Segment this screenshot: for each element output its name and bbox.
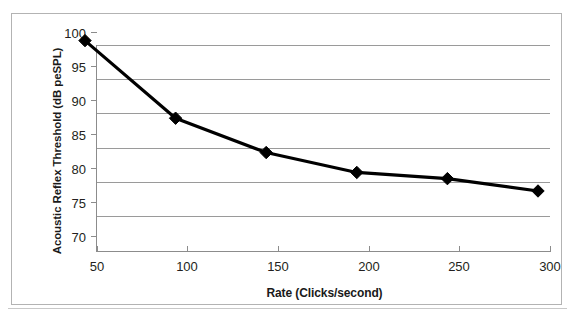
y-tick-label: 80 <box>58 163 86 176</box>
chart-frame: Acoustic Reflex Threshold (dB peSPL) 100… <box>11 13 562 305</box>
plot-area <box>97 46 550 251</box>
y-tick-label: 70 <box>58 231 86 244</box>
x-axis-tick <box>550 246 551 252</box>
x-axis-line <box>97 251 551 252</box>
y-tick-label: 90 <box>58 95 86 108</box>
x-axis-tick <box>459 246 460 252</box>
x-tick-label: 300 <box>520 259 575 274</box>
x-axis-tick <box>97 246 98 252</box>
gridline-80 <box>97 182 550 183</box>
page-separator-rule <box>8 308 567 309</box>
x-axis-title: Rate (Clicks/second) <box>97 286 552 300</box>
figure-canvas: Acoustic Reflex Threshold (dB peSPL) 100… <box>0 0 575 320</box>
gridline-85 <box>97 148 550 149</box>
y-tick-label: 85 <box>58 129 86 142</box>
x-tick-label: 200 <box>339 259 399 274</box>
y-tick-label: 95 <box>58 61 86 74</box>
x-axis-tick <box>278 246 279 252</box>
gridline-100 <box>97 45 550 46</box>
gridline-90 <box>97 113 550 114</box>
x-axis-tick <box>187 246 188 252</box>
x-axis-tick <box>369 246 370 252</box>
y-axis-tick <box>91 32 97 33</box>
x-tick-label: 50 <box>67 259 127 274</box>
y-tick-label: 75 <box>58 197 86 210</box>
x-tick-label: 250 <box>429 259 489 274</box>
x-tick-label: 100 <box>157 259 217 274</box>
x-tick-label: 150 <box>248 259 308 274</box>
y-tick-label: 100 <box>58 27 86 40</box>
gridline-75 <box>97 216 550 217</box>
gridline-95 <box>97 79 550 80</box>
